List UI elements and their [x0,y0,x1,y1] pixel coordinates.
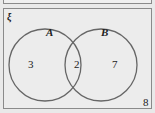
set-a-label: A [46,27,53,38]
intersection-count: 2 [74,59,80,70]
set-b-label: B [101,27,108,38]
outside-count: 8 [143,97,149,108]
universal-set-symbol: ξ [7,12,12,22]
set-b-only-count: 7 [112,59,118,70]
venn-circles [0,0,155,113]
set-a-only-count: 3 [28,59,34,70]
set-a-circle [9,29,81,101]
